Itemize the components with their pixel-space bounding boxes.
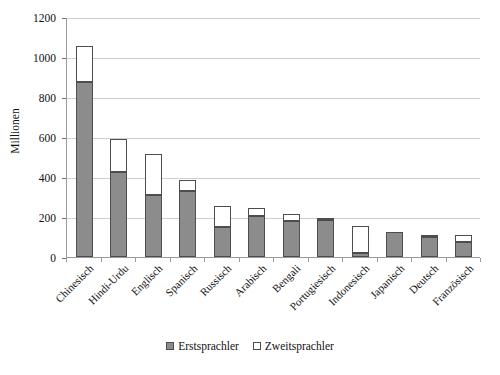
bar-group xyxy=(145,17,162,257)
bar-group xyxy=(110,17,127,257)
bar-segment-zweitsprachler xyxy=(214,206,231,227)
legend-label: Erstsprachler xyxy=(178,340,239,352)
bar-group xyxy=(352,17,369,257)
bar-group xyxy=(421,17,438,257)
legend-swatch-filled-gray-swatch xyxy=(166,342,174,350)
bar-segment-zweitsprachler xyxy=(145,154,162,195)
bar-group xyxy=(455,17,472,257)
y-tick-label: 1200 xyxy=(16,12,56,24)
legend-label: Zweitsprachler xyxy=(265,340,334,352)
bar-group xyxy=(283,17,300,257)
plot-area xyxy=(66,18,480,258)
legend-swatch-outlined-white-swatch xyxy=(253,342,261,350)
bar-segment-zweitsprachler xyxy=(76,46,93,82)
y-tick-label: 600 xyxy=(16,132,56,144)
x-axis-labels: ChinesischHindi-UrduEnglischSpanischRuss… xyxy=(66,262,480,342)
x-tick-label-text: Arabisch xyxy=(232,262,269,299)
x-tick-label-text: Bengali xyxy=(270,262,303,295)
legend-item-erstsprachler: Erstsprachler xyxy=(166,340,239,352)
y-axis-ticks: 020040060080010001200 xyxy=(0,18,66,258)
bar-group xyxy=(386,17,403,257)
y-tick-label: 0 xyxy=(16,252,56,264)
bar-chart: Millionen 020040060080010001200 Chinesis… xyxy=(0,0,500,375)
bar-segment-zweitsprachler xyxy=(248,208,265,216)
x-tick-label-text: Deutsch xyxy=(407,262,441,296)
y-tick-label: 200 xyxy=(16,212,56,224)
bar-segment-zweitsprachler xyxy=(110,139,127,172)
y-tick-label: 800 xyxy=(16,92,56,104)
x-tick-label-text: Englisch xyxy=(129,262,165,298)
bar-segment-zweitsprachler xyxy=(317,218,334,220)
legend-item-zweitsprachler: Zweitsprachler xyxy=(253,340,334,352)
x-tick-label-text: Russisch xyxy=(198,262,234,298)
bar-group xyxy=(76,17,93,257)
bars-layer xyxy=(67,18,480,257)
bar-segment-zweitsprachler xyxy=(283,214,300,221)
bar-segment-zweitsprachler xyxy=(179,180,196,191)
bar-group xyxy=(214,17,231,257)
y-tick-label: 1000 xyxy=(16,52,56,64)
bar-group xyxy=(179,17,196,257)
y-tick-label: 400 xyxy=(16,172,56,184)
chart-legend: Erstsprachler Zweitsprachler xyxy=(0,340,500,352)
bar-group xyxy=(317,17,334,257)
bar-group xyxy=(248,17,265,257)
x-tick-label-text: Spanisch xyxy=(163,262,200,299)
bar-segment-erstsprachler xyxy=(76,82,93,257)
